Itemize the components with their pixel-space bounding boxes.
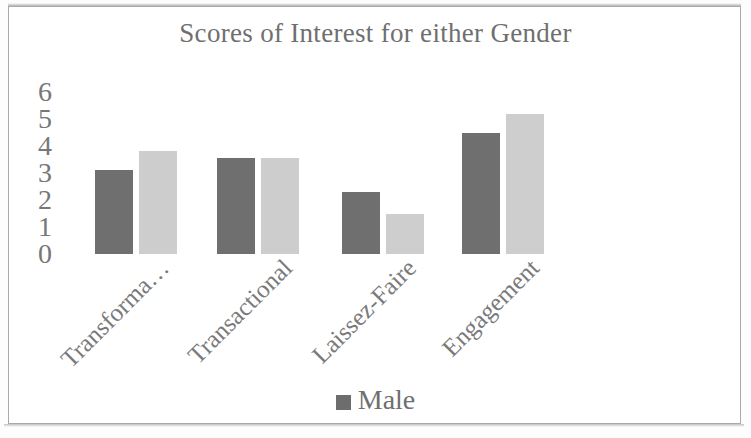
bar-group: [342, 84, 428, 254]
bar-group: [95, 84, 181, 254]
chart-title: Scores of Interest for either Gender: [0, 18, 751, 49]
bar-male[interactable]: [95, 170, 133, 254]
y-axis-tick-2: 2: [18, 186, 52, 214]
legend-label: Male: [358, 386, 416, 414]
legend-swatch-icon: [336, 395, 351, 410]
chart-legend: Male: [0, 386, 751, 414]
y-axis-tick-1: 1: [18, 213, 52, 241]
y-axis-tick-4: 4: [18, 132, 52, 160]
legend-entry-male[interactable]: Male: [336, 386, 416, 414]
y-axis-tick-6: 6: [18, 78, 52, 106]
bar-male[interactable]: [342, 192, 380, 254]
y-axis-tick-5: 5: [18, 105, 52, 133]
y-axis-tick-labels: 6543210: [18, 78, 52, 268]
x-axis-category-labels: Transforma…TransactionalLaissez-FaireEng…: [0, 254, 751, 394]
bar-female[interactable]: [386, 214, 424, 255]
bar-male[interactable]: [462, 133, 500, 255]
bar-male[interactable]: [217, 158, 255, 254]
bar-group: [462, 84, 548, 254]
bar-group: [217, 84, 303, 254]
bar-female[interactable]: [139, 151, 177, 254]
plot-area: [62, 84, 662, 254]
bar-female[interactable]: [261, 158, 299, 254]
y-axis-tick-3: 3: [18, 159, 52, 187]
bar-female[interactable]: [506, 114, 544, 254]
